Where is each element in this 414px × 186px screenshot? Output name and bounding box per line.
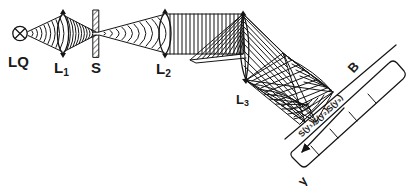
lens-l2-icon: [159, 9, 171, 59]
label-lens-l3-subscript: 3: [244, 98, 249, 108]
beam-fan-crossing-a: [243, 14, 305, 122]
label-slit: S: [91, 60, 101, 75]
beam-slit-to-lens2: [99, 15, 166, 53]
label-lens-l1: L1: [54, 60, 69, 75]
optical-schematic-figure: LQ L1 S L2 L3 B S(y₁) S(y₂) S(y₃) y: [0, 0, 414, 186]
label-lens-l3-letter: L: [236, 92, 244, 107]
label-lens-l3: L3: [236, 93, 249, 106]
label-light-source: LQ: [8, 54, 29, 69]
schematic-drawing: [0, 0, 414, 186]
label-lens-l1-subscript: 1: [63, 67, 69, 78]
label-lens-l1-letter: L: [54, 59, 63, 76]
label-lens-l2: L2: [156, 61, 171, 76]
label-lens-l2-subscript: 2: [165, 68, 171, 79]
slit-icon: [93, 10, 99, 57]
light-source-icon: [13, 26, 27, 40]
label-lens-l2-letter: L: [156, 60, 165, 77]
